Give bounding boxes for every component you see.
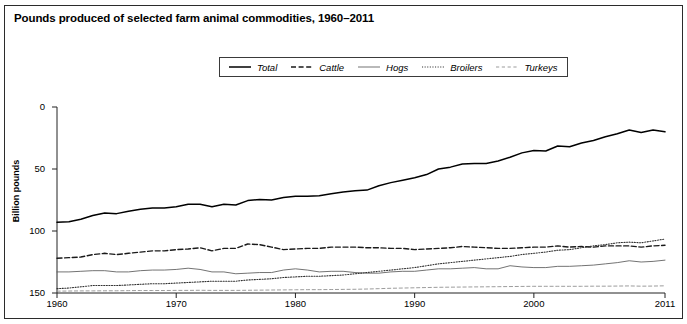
x-tick-label: 2011	[645, 299, 685, 309]
series-line-turkeys	[57, 286, 665, 291]
y-tick-label: 50	[15, 164, 45, 174]
chart-figure: Pounds produced of selected farm animal …	[0, 0, 687, 324]
x-tick-label: 1980	[275, 299, 315, 309]
x-tick-label: 1970	[156, 299, 196, 309]
x-tick-label: 1960	[37, 299, 77, 309]
series-line-total	[57, 130, 665, 222]
series-line-hogs	[57, 260, 665, 274]
x-tick-label: 1990	[395, 299, 435, 309]
x-tick-label: 2000	[514, 299, 554, 309]
y-tick-label: 150	[15, 288, 45, 298]
plot-area	[0, 0, 687, 324]
y-tick-label: 100	[15, 226, 45, 236]
y-tick-label: 0	[15, 102, 45, 112]
series-line-cattle	[57, 244, 665, 258]
